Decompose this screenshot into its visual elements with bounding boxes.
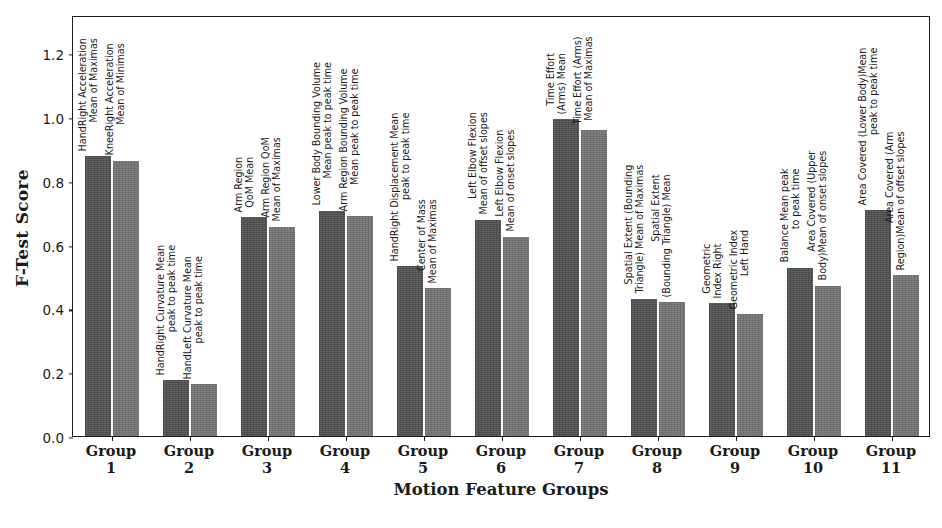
bar-fill: [163, 380, 189, 436]
bar-group: Spatial Extent (Bounding Triangle) Mean …: [631, 17, 685, 436]
bar[interactable]: [553, 119, 579, 436]
bar[interactable]: [893, 275, 919, 436]
bar[interactable]: [865, 210, 891, 436]
x-tick-mark: [814, 436, 815, 441]
x-tick-label-10: Group10: [788, 442, 838, 476]
y-tick-label: 0.4: [43, 302, 73, 318]
bar-fill: [191, 384, 217, 436]
bar-fill: [241, 217, 267, 436]
x-tick-label-1: Group1: [86, 442, 136, 476]
x-axis-title: Motion Feature Groups: [72, 480, 930, 499]
x-tick-mark: [268, 436, 269, 441]
f-test-score-bar-chart: F-Test Score HandRight Acceleration Mean…: [0, 0, 942, 528]
y-tick-label: 0.8: [43, 175, 73, 191]
bar-group: Lower Body Bounding Volume Mean peak to …: [319, 17, 373, 436]
bar-annotation: Arm Region Bounding Volume Mean peak to …: [338, 68, 360, 211]
bar[interactable]: [113, 161, 139, 436]
x-tick-label-word: Group: [242, 442, 292, 459]
bar[interactable]: [737, 314, 763, 436]
bar[interactable]: [191, 384, 217, 436]
bar[interactable]: [241, 217, 267, 436]
bar-annotation: Geometric Index Right: [700, 243, 722, 298]
bar[interactable]: [269, 227, 295, 436]
x-tick-label-word: Group: [632, 442, 682, 459]
bar-annotation: HandRight Curvature Mean peak to peak ti…: [154, 245, 176, 376]
bar-fill: [319, 211, 345, 436]
bar-fill: [659, 302, 685, 436]
plot-area: HandRight Acceleration Mean of MaximasKn…: [72, 16, 930, 437]
bar[interactable]: [85, 156, 111, 436]
bars-layer: HandRight Acceleration Mean of MaximasKn…: [73, 17, 929, 436]
y-tick-label: 0.0: [43, 430, 73, 446]
bar[interactable]: [815, 286, 841, 436]
x-tick-label-number: 10: [788, 459, 838, 476]
bar-group: Arm Region QoM MeanArm Region QoM Mean o…: [241, 17, 295, 436]
bar-fill: [631, 299, 657, 436]
bar[interactable]: [503, 237, 529, 436]
bar-annotation: KneeRight Acceleration Mean of Minimas: [104, 44, 126, 156]
x-tick-label-number: 2: [164, 459, 214, 476]
x-tick-label-word: Group: [86, 442, 136, 459]
bar-fill: [269, 227, 295, 436]
x-tick-mark: [892, 436, 893, 441]
bar-annotation: Arm Region QoM Mean: [232, 157, 254, 213]
x-tick-label-8: Group8: [632, 442, 682, 476]
bar[interactable]: [347, 216, 373, 436]
bar[interactable]: [659, 302, 685, 436]
bar[interactable]: [397, 266, 423, 436]
bar-fill: [425, 288, 451, 436]
bar-annotation: Area Covered (Upper Body)Mean of onset s…: [806, 151, 828, 281]
bar-fill: [113, 161, 139, 436]
x-tick-label-3: Group3: [242, 442, 292, 476]
x-tick-mark: [580, 436, 581, 441]
bar-group: HandRight Acceleration Mean of MaximasKn…: [85, 17, 139, 436]
bar-fill: [85, 156, 111, 436]
bar-annotation: HandRight Acceleration Mean of Maximas: [76, 38, 98, 151]
bar-fill: [475, 220, 501, 436]
x-tick-mark: [424, 436, 425, 441]
y-tick-label: 1.0: [43, 111, 73, 127]
bar-annotation: Area Covered (Lower Body)Mean peak to pe…: [856, 48, 878, 206]
x-tick-label-number: 4: [320, 459, 370, 476]
x-tick-label-word: Group: [554, 442, 604, 459]
y-tick-label: 1.2: [43, 47, 73, 63]
bar-annotation: Left Elbow Flexion Mean of onset slopes: [494, 130, 516, 232]
x-tick-label-word: Group: [866, 442, 916, 459]
y-axis-title: F-Test Score: [2, 0, 42, 455]
bar[interactable]: [581, 130, 607, 436]
bar[interactable]: [631, 299, 657, 436]
x-tick-mark: [736, 436, 737, 441]
bar-fill: [709, 303, 735, 436]
bar-group: Area Covered (Lower Body)Mean peak to pe…: [865, 17, 919, 436]
x-tick-label-4: Group4: [320, 442, 370, 476]
bar-annotation: Arm Region QoM Mean of Maximas: [260, 138, 282, 222]
bar[interactable]: [709, 303, 735, 436]
x-tick-label-number: 1: [86, 459, 136, 476]
x-tick-label-6: Group6: [476, 442, 526, 476]
bar-fill: [865, 210, 891, 436]
y-tick-label: 0.6: [43, 239, 73, 255]
x-tick-label-5: Group5: [398, 442, 448, 476]
x-tick-mark: [658, 436, 659, 441]
x-tick-label-number: 3: [242, 459, 292, 476]
x-tick-label-number: 11: [866, 459, 916, 476]
bar-annotation: Spatial Extent (Bounding Triangle) Mean: [650, 174, 672, 297]
bar-group: Geometric Index RightGeometric Index Lef…: [709, 17, 763, 436]
bar-annotation: Lower Body Bounding Volume Mean peak to …: [310, 63, 332, 206]
bar[interactable]: [163, 380, 189, 436]
bar-annotation: Time Effort (Arms) Mean: [544, 53, 566, 114]
bar-annotation: Geometric Index Left Hand: [728, 230, 750, 310]
bar-annotation: Spatial Extent (Bounding Triangle) Mean …: [622, 165, 644, 294]
bar-group: HandRight Displacement Mean peak to peak…: [397, 17, 451, 436]
x-tick-label-number: 6: [476, 459, 526, 476]
x-tick-label-word: Group: [398, 442, 448, 459]
bar[interactable]: [425, 288, 451, 436]
bar[interactable]: [787, 268, 813, 436]
bar-annotation: Left Elbow Flexion Mean of offset slopes: [466, 113, 488, 215]
bar-group: Balance Mean peak to peak timeArea Cover…: [787, 17, 841, 436]
bar[interactable]: [319, 211, 345, 436]
x-tick-label-word: Group: [320, 442, 370, 459]
x-tick-mark: [112, 436, 113, 441]
x-tick-mark: [190, 436, 191, 441]
bar[interactable]: [475, 220, 501, 436]
